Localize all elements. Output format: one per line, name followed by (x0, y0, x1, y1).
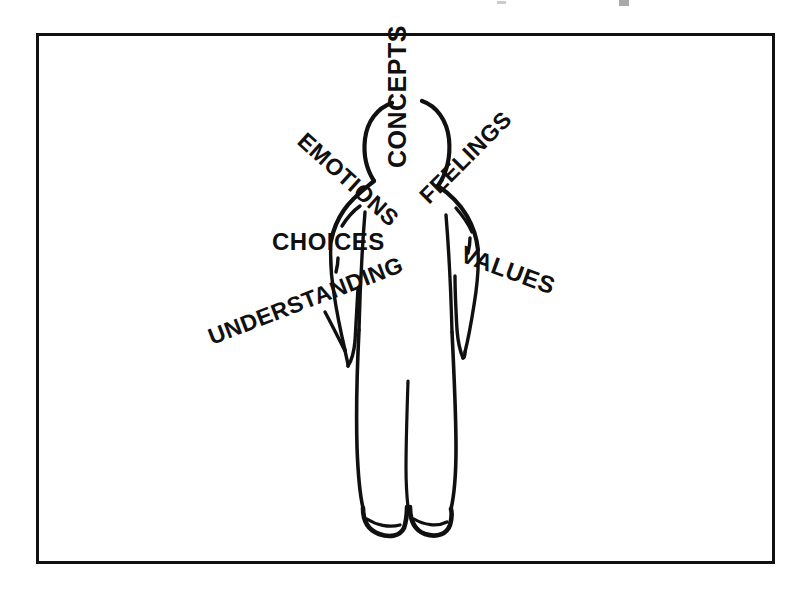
figure-illustration: CONCEPTS EMOTIONS FEELINGS CHOICES VALUE… (0, 0, 801, 592)
pointer-choices-to-arm-icon (336, 258, 338, 272)
leg-inner-split (406, 381, 408, 507)
hand-right (463, 352, 465, 358)
label-concepts: CONCEPTS (383, 25, 411, 168)
label-choices: CHOICES (272, 228, 385, 255)
diagram-canvas: CONCEPTS EMOTIONS FEELINGS CHOICES VALUE… (0, 0, 801, 592)
